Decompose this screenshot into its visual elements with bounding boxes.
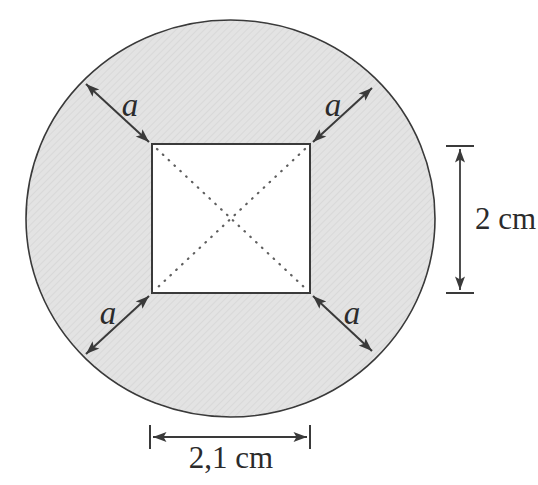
height-dim-label: 2 cm — [475, 201, 536, 236]
width-dimension: 2,1 cm — [150, 425, 310, 475]
figure: a a a a 2 cm 2,1 cm — [0, 0, 538, 485]
label-a-top-left: a — [122, 87, 139, 123]
height-dimension: 2 cm — [446, 146, 536, 293]
label-a-bottom-right: a — [344, 295, 361, 331]
label-a-top-right: a — [325, 87, 342, 123]
label-a-bottom-left: a — [100, 295, 117, 331]
width-dim-label: 2,1 cm — [189, 440, 273, 475]
geometry-diagram: a a a a 2 cm 2,1 cm — [0, 0, 538, 485]
